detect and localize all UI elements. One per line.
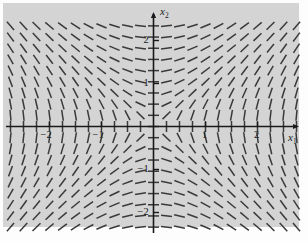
field-segment bbox=[282, 155, 285, 166]
field-segment bbox=[122, 180, 132, 184]
field-segment bbox=[135, 70, 146, 72]
field-segment bbox=[22, 88, 25, 99]
field-segment bbox=[227, 213, 236, 219]
field-segment bbox=[111, 100, 117, 109]
field-segment bbox=[240, 224, 249, 231]
field-segment bbox=[188, 79, 197, 85]
field-segment bbox=[283, 132, 284, 143]
field-segment bbox=[228, 56, 236, 64]
field-segment bbox=[241, 44, 249, 52]
field-segment bbox=[20, 200, 26, 209]
field-segment bbox=[98, 156, 105, 165]
field-segment bbox=[243, 144, 246, 155]
field-segment bbox=[87, 132, 89, 143]
field-segment bbox=[174, 226, 185, 228]
field-segment bbox=[109, 214, 119, 218]
field-segment bbox=[203, 144, 208, 154]
direction-field-canvas bbox=[0, 0, 308, 241]
field-segment bbox=[110, 68, 120, 74]
field-segment bbox=[21, 55, 27, 64]
field-segment bbox=[46, 201, 53, 209]
field-segment bbox=[22, 155, 25, 166]
field-segment bbox=[294, 177, 299, 187]
field-segment bbox=[176, 100, 184, 108]
field-segment bbox=[47, 77, 52, 87]
field-segment bbox=[84, 56, 93, 63]
field-segment bbox=[72, 167, 78, 176]
field-segment bbox=[71, 34, 80, 40]
field-segment bbox=[268, 178, 274, 188]
field-segment bbox=[137, 134, 145, 142]
field-segment bbox=[58, 212, 66, 219]
field-segment bbox=[214, 56, 223, 63]
field-segment bbox=[187, 225, 197, 228]
field-segment bbox=[9, 143, 11, 154]
field-segment bbox=[188, 168, 197, 174]
field-segment bbox=[214, 34, 223, 40]
field-segment bbox=[231, 110, 233, 121]
field-segment bbox=[161, 70, 172, 72]
field-segment bbox=[293, 22, 300, 30]
field-segment bbox=[191, 132, 195, 142]
field-segment bbox=[269, 144, 271, 155]
field-segment bbox=[242, 155, 246, 165]
field-segment bbox=[161, 25, 172, 26]
field-segment bbox=[295, 77, 299, 87]
field-segment bbox=[47, 166, 52, 176]
field-segment bbox=[202, 156, 209, 165]
field-segment bbox=[135, 91, 145, 94]
field-segment bbox=[86, 144, 90, 154]
field-segment bbox=[21, 178, 26, 188]
field-segment bbox=[21, 189, 27, 198]
field-segment bbox=[227, 201, 235, 208]
field-segment bbox=[36, 132, 37, 143]
field-segment bbox=[85, 179, 93, 187]
field-segment bbox=[280, 200, 286, 209]
field-segment bbox=[8, 177, 13, 187]
field-segment bbox=[74, 99, 78, 109]
field-segment bbox=[161, 91, 171, 94]
field-segment bbox=[135, 158, 145, 161]
field-segment bbox=[201, 191, 210, 197]
field-segment bbox=[85, 67, 93, 75]
field-segment bbox=[188, 57, 198, 62]
field-segment bbox=[295, 155, 298, 166]
field-segment bbox=[229, 88, 234, 98]
field-segment bbox=[293, 212, 300, 221]
field-segment bbox=[33, 22, 41, 30]
field-segment bbox=[187, 214, 197, 218]
field-segment bbox=[84, 23, 94, 28]
field-segment bbox=[87, 110, 89, 121]
x-tick-label: −1 bbox=[93, 130, 104, 141]
field-segment bbox=[161, 204, 172, 206]
field-segment bbox=[97, 191, 106, 197]
field-segment bbox=[280, 212, 287, 220]
field-segment bbox=[61, 144, 64, 155]
field-segment bbox=[122, 47, 133, 50]
field-segment bbox=[72, 56, 80, 64]
field-segment bbox=[214, 45, 223, 51]
field-segment bbox=[86, 99, 90, 109]
field-segment bbox=[8, 55, 13, 65]
field-segment bbox=[227, 45, 235, 52]
field-segment bbox=[201, 56, 210, 62]
field-segment bbox=[161, 36, 172, 37]
field-segment bbox=[256, 99, 259, 110]
field-segment bbox=[215, 167, 222, 175]
field-segment bbox=[34, 166, 39, 176]
field-segment bbox=[201, 35, 211, 40]
field-segment bbox=[60, 88, 64, 98]
field-segment bbox=[86, 155, 92, 164]
field-segment bbox=[72, 77, 78, 86]
field-segment bbox=[174, 58, 184, 61]
field-segment bbox=[135, 25, 146, 26]
field-segment bbox=[60, 166, 66, 175]
field-segment bbox=[162, 146, 172, 151]
field-segment bbox=[58, 34, 66, 41]
field-segment bbox=[46, 189, 53, 198]
field-segment bbox=[84, 45, 93, 51]
field-segment bbox=[48, 99, 51, 110]
field-segment bbox=[97, 56, 106, 62]
field-segment bbox=[255, 178, 261, 187]
field-segment bbox=[20, 33, 27, 41]
